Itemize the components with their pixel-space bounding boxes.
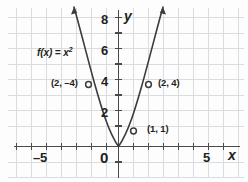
function-equation-exponent: 2: [69, 46, 73, 53]
marker-right-point: [146, 82, 152, 88]
x-tick-label-5: 5: [203, 150, 210, 165]
y-tick-label-2: 2: [101, 105, 108, 120]
x-tick-label-neg5: –5: [33, 150, 47, 165]
marker-left-point: [86, 82, 92, 88]
y-tick-label-8: 8: [101, 12, 108, 27]
function-equation-base: f(x) = x: [37, 47, 69, 58]
point-label-left: (2, –4): [51, 77, 78, 88]
graph-figure: 8 6 4 2 0 –5 5 y x (2, –4) (2, 4) (1, 1)…: [0, 0, 248, 182]
origin-label: 0: [100, 149, 108, 166]
marker-unit-point: [131, 128, 137, 134]
y-tick-label-6: 6: [101, 43, 108, 58]
x-axis-label: x: [228, 147, 236, 163]
y-axis-label: y: [124, 8, 132, 24]
y-tick-label-4: 4: [101, 74, 108, 89]
function-equation-label: f(x) = x2: [37, 47, 73, 58]
point-label-right: (2, 4): [158, 77, 180, 88]
point-label-unit: (1, 1): [147, 123, 169, 134]
